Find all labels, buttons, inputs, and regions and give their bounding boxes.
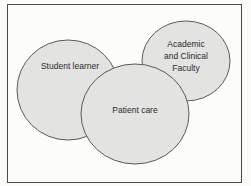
label-academic-clinical-faculty: Academic and Clinical Faculty — [150, 38, 222, 74]
label-student-learner: Student learner — [30, 60, 110, 72]
venn-diagram — [0, 0, 251, 186]
label-patient-care: Patient care — [95, 104, 175, 116]
label-line: and Clinical — [150, 50, 222, 62]
label-line: Academic — [150, 38, 222, 50]
label-line: Faculty — [150, 62, 222, 74]
